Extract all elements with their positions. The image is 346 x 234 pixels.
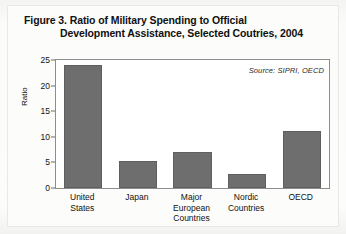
bar <box>64 65 102 188</box>
bar <box>283 131 321 188</box>
figure-title-line-1: Figure 3. Ratio of Military Spending to … <box>24 14 344 27</box>
x-tick-label: OECD <box>273 192 328 203</box>
bar <box>119 161 157 188</box>
y-axis: 0510152025 <box>28 53 55 195</box>
x-tick-label: UnitedStates <box>55 192 110 213</box>
figure-title-line-2: Development Assistance, Selected Coutrie… <box>24 27 344 40</box>
source-annotation: Source: SIPRI, OECD <box>249 66 324 75</box>
x-tick-label: NordicCountries <box>219 192 274 213</box>
y-tick-label: 25 <box>41 55 50 65</box>
y-tick-label: 15 <box>41 106 50 116</box>
y-tick-label: 20 <box>41 81 50 91</box>
figure-container: Figure 3. Ratio of Military Spending to … <box>0 0 346 234</box>
y-axis-title: Ratio <box>20 87 29 106</box>
plot-frame: Source: SIPRI, OECD <box>55 59 330 189</box>
x-axis: UnitedStatesJapanMajorEuropeanCountriesN… <box>55 192 330 234</box>
x-tick-label: Japan <box>110 192 165 203</box>
figure-title: Figure 3. Ratio of Military Spending to … <box>24 14 344 40</box>
y-tick-label: 10 <box>41 132 50 142</box>
x-tick-label: MajorEuropeanCountries <box>164 192 219 224</box>
bar <box>173 152 211 188</box>
bar <box>228 174 266 188</box>
y-tick-label: 0 <box>45 183 50 193</box>
y-tick-label: 5 <box>45 157 50 167</box>
figure-frame: Figure 3. Ratio of Military Spending to … <box>8 6 338 226</box>
plot-area <box>56 60 329 188</box>
